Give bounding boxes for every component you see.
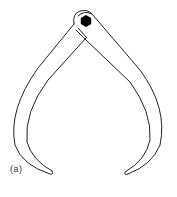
calipers-figure: (a) [0, 0, 177, 197]
right-leg-outer [78, 12, 162, 174]
pivot-screw-icon [81, 15, 91, 27]
right-leg-inner [76, 30, 150, 175]
left-leg-inner [27, 38, 86, 171]
calipers-drawing [0, 0, 177, 197]
left-leg-outer [14, 24, 74, 174]
figure-label: (a) [10, 164, 23, 174]
